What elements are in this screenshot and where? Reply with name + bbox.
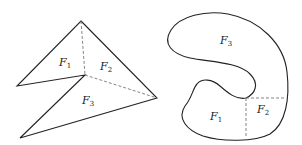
region-label-f2: F2 <box>256 103 269 117</box>
polygon-figure: F1 F2 F3 <box>17 21 157 138</box>
region-label-f1: F1 <box>58 56 71 70</box>
blob-outline <box>168 13 288 140</box>
blob-figure: F3 F1 F2 <box>168 13 288 140</box>
polygon-outline <box>17 21 157 138</box>
region-label-f1: F1 <box>209 110 222 124</box>
diagram-canvas: F1 F2 F3 F3 F1 F2 <box>0 0 302 145</box>
dashed-divider-vertical <box>81 21 85 75</box>
region-label-f2: F2 <box>99 60 112 74</box>
region-label-f3: F3 <box>219 34 232 48</box>
region-label-f3: F3 <box>81 94 94 108</box>
